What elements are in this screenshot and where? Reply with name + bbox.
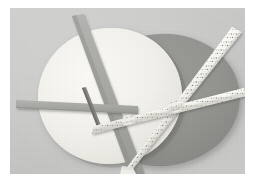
photo-frame: [0, 0, 260, 192]
photograph: [10, 8, 245, 174]
scene: [10, 8, 245, 174]
scene-svg: [10, 8, 245, 174]
